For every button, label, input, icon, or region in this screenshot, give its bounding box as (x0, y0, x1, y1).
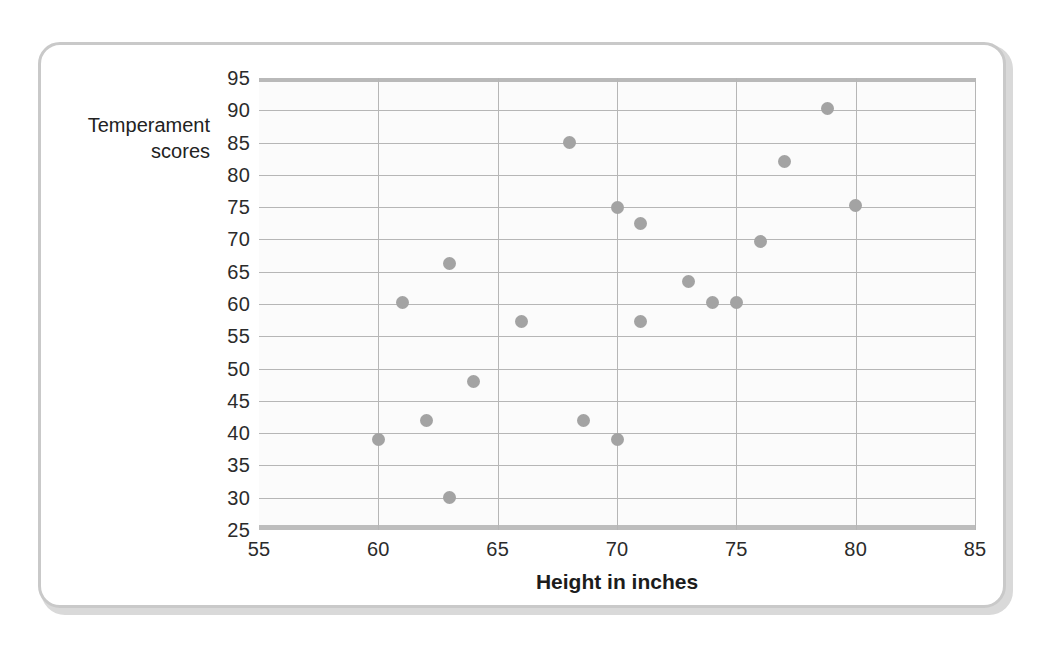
x-axis-title: Height in inches (259, 570, 975, 594)
data-point (443, 491, 456, 504)
y-axis-tick-label: 85 (196, 131, 250, 154)
y-axis-tick-label: 45 (196, 389, 250, 412)
data-point (821, 102, 834, 115)
y-axis-tick-label: 30 (196, 486, 250, 509)
data-point (443, 257, 456, 270)
y-axis-tick-label: 70 (196, 228, 250, 251)
y-axis-tick-label: 90 (196, 99, 250, 122)
y-axis-title-line-2: scores (64, 138, 210, 164)
data-point (467, 375, 480, 388)
y-axis-tick-label: 55 (196, 325, 250, 348)
data-point (563, 136, 576, 149)
y-axis-title: Temperament scores (64, 112, 210, 164)
x-axis-tick-label: 55 (248, 538, 271, 561)
y-axis-title-line-1: Temperament (64, 112, 210, 138)
data-point (706, 296, 719, 309)
data-point (396, 296, 409, 309)
data-point (372, 433, 385, 446)
x-axis-tick-label: 85 (964, 538, 987, 561)
gridline-vertical (856, 78, 857, 530)
data-point (778, 155, 791, 168)
data-point (515, 315, 528, 328)
y-axis-tick-label: 35 (196, 454, 250, 477)
y-axis-tick-label: 40 (196, 422, 250, 445)
gridline-vertical (975, 78, 976, 530)
y-axis-tick-label: 60 (196, 293, 250, 316)
plot-area (259, 78, 975, 530)
y-axis-tick-label: 95 (196, 67, 250, 90)
screenshot-root: Temperament scores 253035404550556065707… (0, 0, 1050, 650)
data-point (611, 201, 624, 214)
y-axis-tick-label: 50 (196, 357, 250, 380)
y-axis-ticks: 253035404550556065707580859095 (190, 78, 250, 530)
y-axis-tick-label: 25 (196, 519, 250, 542)
y-axis-tick-label: 75 (196, 196, 250, 219)
data-point (634, 217, 647, 230)
data-point (611, 433, 624, 446)
x-axis-ticks: 55606570758085 (259, 538, 975, 566)
data-point (730, 296, 743, 309)
y-axis-tick-label: 80 (196, 163, 250, 186)
data-point (634, 315, 647, 328)
gridline-vertical (617, 78, 618, 530)
x-axis-tick-label: 60 (367, 538, 390, 561)
x-axis-tick-label: 65 (486, 538, 509, 561)
gridline-vertical (498, 78, 499, 530)
x-axis-tick-label: 75 (725, 538, 748, 561)
y-axis-tick-label: 65 (196, 260, 250, 283)
data-point (682, 275, 695, 288)
x-axis-tick-label: 80 (844, 538, 867, 561)
x-axis-tick-label: 70 (606, 538, 629, 561)
data-point (754, 235, 767, 248)
data-point (849, 199, 862, 212)
gridline-vertical (378, 78, 379, 530)
data-point (420, 414, 433, 427)
data-point (577, 414, 590, 427)
